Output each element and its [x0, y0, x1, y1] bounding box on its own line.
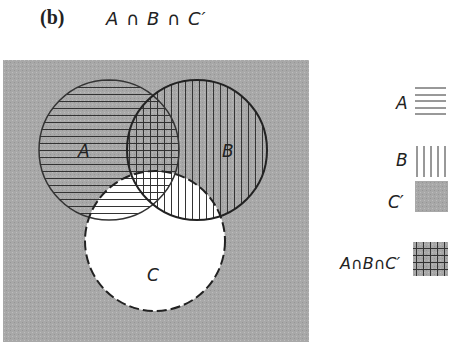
- legend-label-b: B: [396, 150, 408, 170]
- legend-swatch-intersection: [413, 242, 448, 276]
- venn-diagram: A B C A B C′ A∩B∩C′: [0, 0, 460, 342]
- legend-swatch-c-prime: [415, 181, 448, 212]
- legend-label-c-prime: C′: [388, 192, 404, 212]
- legend-label-a: A: [395, 93, 408, 113]
- legend: A B C′ A∩B∩C′: [339, 88, 448, 276]
- set-c-label: C: [147, 265, 159, 285]
- legend-label-intersection: A∩B∩C′: [339, 254, 401, 273]
- set-a-label: A: [77, 141, 90, 161]
- legend-swatch-b: [417, 146, 445, 177]
- set-b-label: B: [222, 141, 234, 161]
- legend-swatch-a: [415, 88, 446, 114]
